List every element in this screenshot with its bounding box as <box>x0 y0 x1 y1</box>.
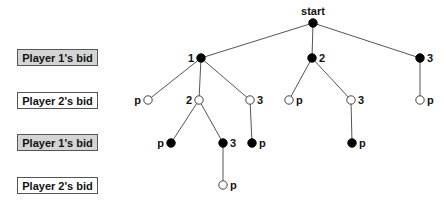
tree-node-b4: p <box>285 94 303 106</box>
node-label: 2 <box>319 52 325 64</box>
tree-node-a1: 1 <box>188 52 205 64</box>
tree-edge <box>199 58 201 100</box>
node-label: p <box>230 179 237 191</box>
filled-circle-icon <box>248 139 256 147</box>
tree-node-c4: p <box>348 137 366 149</box>
filled-circle-icon <box>348 139 356 147</box>
filled-circle-icon <box>167 139 175 147</box>
node-label: p <box>296 94 303 106</box>
node-label: 3 <box>427 52 433 64</box>
node-label: p <box>259 137 266 149</box>
tree-node-a3: 3 <box>416 52 433 64</box>
tree-edge <box>351 100 352 143</box>
open-circle-icon <box>416 96 424 104</box>
tree-edge <box>148 58 201 100</box>
node-label: 3 <box>230 137 236 149</box>
tree-edge <box>201 23 313 58</box>
filled-circle-icon <box>197 54 205 62</box>
tree-node-c2: 3 <box>219 137 236 149</box>
game-tree: start123p23p3pp3ppp <box>0 0 444 212</box>
tree-edge <box>171 100 199 143</box>
node-label: p <box>427 94 434 106</box>
tree-node-c3: p <box>248 137 266 149</box>
filled-circle-icon <box>308 54 316 62</box>
node-label: p <box>157 137 164 149</box>
node-label: 2 <box>186 94 192 106</box>
tree-node-start: start <box>301 5 325 27</box>
filled-circle-icon <box>309 19 317 27</box>
filled-circle-icon <box>219 139 227 147</box>
filled-circle-icon <box>416 54 424 62</box>
node-label: 3 <box>358 94 364 106</box>
open-circle-icon <box>347 96 355 104</box>
tree-edge <box>312 23 313 58</box>
tree-edge <box>250 100 252 143</box>
tree-node-d1: p <box>219 179 237 191</box>
tree-node-b5: 3 <box>347 94 364 106</box>
node-label: p <box>134 94 141 106</box>
open-circle-icon <box>219 181 227 189</box>
node-label: 3 <box>257 94 263 106</box>
node-label: start <box>301 5 325 17</box>
tree-node-b6: p <box>416 94 434 106</box>
tree-nodes: start123p23p3pp3ppp <box>134 5 434 191</box>
tree-edge <box>201 58 250 100</box>
node-label: p <box>359 137 366 149</box>
open-circle-icon <box>285 96 293 104</box>
tree-edge <box>199 100 223 143</box>
tree-node-b3: 3 <box>246 94 263 106</box>
open-circle-icon <box>144 96 152 104</box>
open-circle-icon <box>195 96 203 104</box>
tree-node-b2: 2 <box>186 94 203 106</box>
tree-edge <box>312 58 351 100</box>
node-label: 1 <box>188 52 194 64</box>
tree-node-b1: p <box>134 94 152 106</box>
tree-node-c1: p <box>157 137 175 149</box>
open-circle-icon <box>246 96 254 104</box>
tree-edge <box>313 23 420 58</box>
